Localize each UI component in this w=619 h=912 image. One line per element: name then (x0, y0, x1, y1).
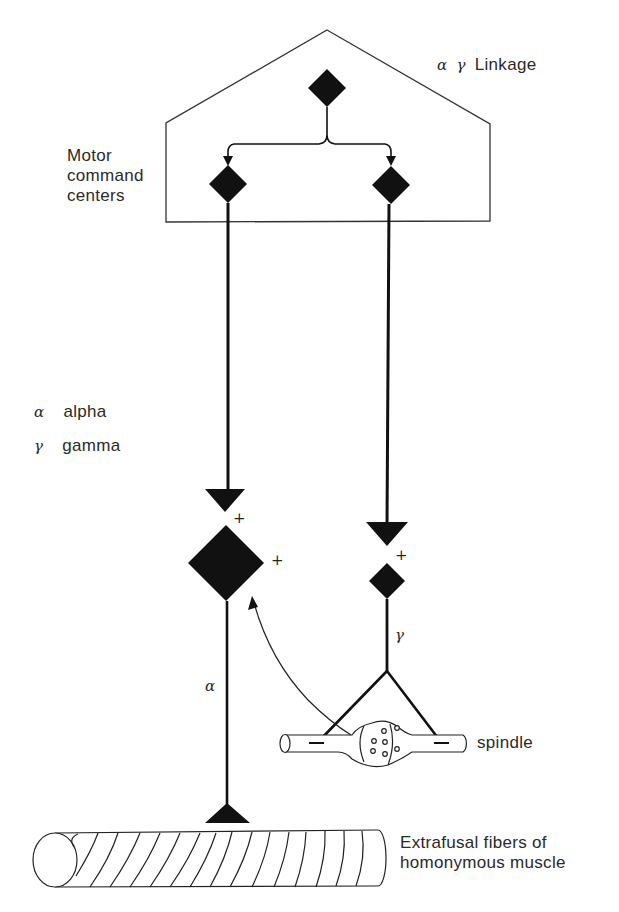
arrowhead-right-icon (386, 156, 396, 166)
legend-gamma: γ gamma (34, 435, 120, 457)
extrafusal-fibers-label: Extrafusal fibers of homonymous muscle (400, 833, 566, 873)
linkage-text: Linkage (475, 55, 537, 74)
gamma-symbol: γ (456, 56, 465, 74)
alpha-motor-neuron-diamond (188, 525, 264, 601)
legend-alpha-text: alpha (63, 402, 106, 421)
extrafusal-muscle-fiber (33, 830, 386, 887)
spindle-afferent-feedback (254, 603, 351, 735)
linkage-diamond-node (308, 69, 346, 107)
gamma-descending-pathway (387, 204, 389, 526)
spindle-label: spindle (477, 732, 533, 753)
legend-alpha: α alpha (34, 401, 107, 423)
label-line: homonymous muscle (400, 853, 566, 873)
legend-alpha-symbol: α (34, 403, 44, 421)
neuromuscular-endplate (205, 803, 250, 823)
alpha-feedback-plus-sign: + (271, 551, 284, 569)
gamma-command-diamond (372, 166, 410, 204)
arrowhead-left-icon (223, 156, 233, 166)
legend-gamma-text: gamma (62, 436, 120, 455)
gamma-pathway-label: γ (395, 626, 404, 644)
linkage-branch-line (228, 107, 391, 160)
label-line: Motor (67, 146, 144, 166)
alpha-pathway-label: α (205, 677, 215, 695)
label-line: command (67, 166, 144, 186)
gamma-synapse-arrow-icon (366, 522, 408, 546)
gamma-motor-neuron-diamond (369, 563, 405, 599)
alpha-gamma-linkage-title: α γ Linkage (437, 54, 536, 76)
alpha-input-plus-sign: + (233, 509, 246, 527)
gamma-input-plus-sign: + (395, 546, 408, 564)
alpha-symbol: α (437, 56, 447, 74)
label-line: centers (67, 186, 144, 206)
motor-command-centers-label: Motor command centers (67, 146, 144, 206)
legend-gamma-symbol: γ (34, 437, 43, 455)
label-line: Extrafusal fibers of (400, 833, 566, 853)
alpha-command-diamond (209, 165, 247, 203)
feedback-arrowhead-icon (248, 596, 258, 610)
